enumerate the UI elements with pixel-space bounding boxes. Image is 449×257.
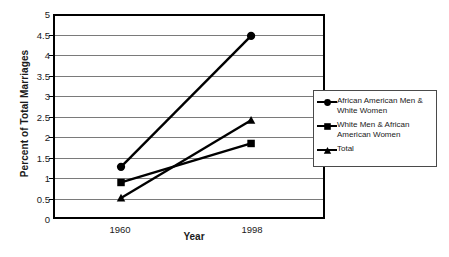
y-tick-label: 0 (20, 215, 50, 224)
y-tick-label: 5 (20, 10, 50, 19)
series-white-men-african-american-women (117, 140, 255, 186)
y-tick-label: 0.5 (20, 194, 50, 203)
y-axis-tick-labels: 5 4.5 4 3.5 3 2.5 2 1.5 1 0.5 0 (20, 0, 50, 257)
legend-item[interactable]: Total (317, 144, 433, 155)
legend-item-label: White Men & African American Women (337, 120, 409, 139)
legend-item-label: African American Men & White Women (337, 96, 423, 115)
legend: African American Men & White Women White… (313, 90, 437, 167)
y-tick-label: 3 (20, 92, 50, 101)
series-african-american-men-white-women (117, 32, 255, 171)
plot-area (53, 14, 325, 219)
circle-marker-icon (317, 97, 337, 107)
legend-item[interactable]: White Men & African American Women (317, 120, 433, 139)
y-tick-label: 2.5 (20, 112, 50, 121)
series-layer (55, 16, 323, 217)
y-tick-label: 4 (20, 51, 50, 60)
figure-container: Percent of Total Marriages 5 4.5 4 3.5 3… (0, 0, 449, 257)
square-marker-icon (317, 121, 337, 131)
y-tick-label: 3.5 (20, 71, 50, 80)
x-tick-label-1960: 1960 (100, 224, 140, 235)
x-tick-label-1998: 1998 (232, 224, 272, 235)
legend-item[interactable]: African American Men & White Women (317, 96, 433, 115)
y-tick-label: 1 (20, 174, 50, 183)
y-tick-label: 2 (20, 133, 50, 142)
x-axis-title: Year (164, 231, 224, 242)
y-tick-label: 1.5 (20, 153, 50, 162)
legend-item-label: Total (337, 144, 354, 154)
series-total (117, 116, 256, 201)
triangle-marker-icon (317, 145, 337, 155)
y-tick-label: 4.5 (20, 30, 50, 39)
